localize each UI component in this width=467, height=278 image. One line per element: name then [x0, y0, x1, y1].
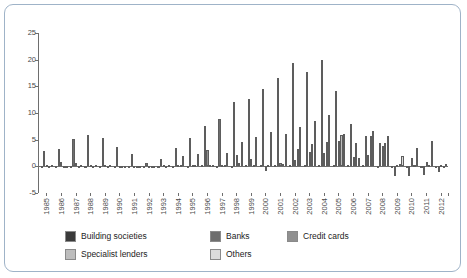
- bar-group: [141, 33, 156, 193]
- x-axis-tick-label: 2008: [378, 198, 387, 215]
- bar-banks: [175, 148, 177, 167]
- bar-banks: [87, 135, 89, 166]
- x-axis-tick-label: 2012: [437, 198, 446, 215]
- x-axis-tick-mark: [397, 193, 398, 196]
- x-axis-tick-mark: [411, 193, 412, 196]
- bar-group: [97, 33, 112, 193]
- bar-group: [68, 33, 83, 193]
- chart-legend: Building societiesBanksCredit cardsSpeci…: [65, 231, 395, 267]
- plot-area: 2520151050-5: [38, 33, 448, 193]
- bar-others: [168, 165, 170, 167]
- x-axis-tick-mark: [207, 193, 208, 196]
- x-axis-tick-mark: [149, 193, 150, 196]
- bar-group: [346, 33, 361, 193]
- bar-series-container: [39, 33, 448, 193]
- bar-credit-cards: [206, 150, 208, 167]
- bar-others: [182, 156, 184, 166]
- bar-group: [375, 33, 390, 193]
- bar-group: [287, 33, 302, 193]
- x-axis-tick-label: 2002: [291, 198, 300, 215]
- x-axis-tick-mark: [338, 193, 339, 196]
- bar-group: [170, 33, 185, 193]
- x-axis-tick-label: 1988: [86, 198, 95, 215]
- x-axis-tick-mark: [134, 193, 135, 196]
- y-axis-tick-labels: 2520151050-5: [16, 33, 36, 193]
- bar-credit-cards: [265, 166, 267, 170]
- y-axis-tick-mark: [35, 140, 38, 141]
- y-axis-tick-mark: [35, 60, 38, 61]
- bar-others: [387, 136, 389, 166]
- bar-group: [39, 33, 54, 193]
- x-axis-tick-mark: [324, 193, 325, 196]
- bar-banks: [438, 166, 440, 172]
- bar-group: [258, 33, 273, 193]
- x-axis-tick-mark: [426, 193, 427, 196]
- legend-label: Credit cards: [303, 231, 349, 242]
- x-axis-tick-label: 2009: [393, 198, 402, 215]
- bar-building-societies: [143, 166, 145, 168]
- x-axis-tick-label: 2003: [305, 198, 314, 215]
- y-axis-tick-mark: [35, 193, 38, 194]
- x-axis-tick-label: 2007: [364, 198, 373, 215]
- x-axis-tick-mark: [309, 193, 310, 196]
- x-axis-tick-label: 1990: [115, 198, 124, 215]
- bar-banks: [102, 138, 104, 167]
- legend-item-building-societies[interactable]: Building societies: [65, 231, 147, 242]
- x-axis-tick-mark: [46, 193, 47, 196]
- bar-others: [65, 166, 67, 168]
- x-axis-tick-mark: [368, 193, 369, 196]
- bar-banks: [277, 78, 279, 167]
- bar-banks: [43, 151, 45, 166]
- bar-group: [112, 33, 127, 193]
- legend-item-banks[interactable]: Banks: [210, 231, 250, 242]
- legend-item-specialist-lenders[interactable]: Specialist lenders: [65, 249, 148, 260]
- bar-others: [95, 165, 97, 167]
- bar-banks: [189, 138, 191, 167]
- bar-others: [138, 166, 140, 168]
- x-axis-tick-mark: [76, 193, 77, 196]
- x-axis-tick-mark: [192, 193, 193, 196]
- bar-group: [317, 33, 332, 193]
- bar-others: [270, 132, 272, 167]
- bar-group: [185, 33, 200, 193]
- x-axis-tick-label: 2004: [320, 198, 329, 215]
- bar-banks: [408, 166, 410, 176]
- x-axis-tick-mark: [236, 193, 237, 196]
- bar-banks: [131, 154, 133, 167]
- bar-group: [273, 33, 288, 193]
- x-axis-tick-label: 2010: [407, 198, 416, 215]
- bar-banks: [262, 89, 264, 166]
- bar-others: [372, 131, 374, 167]
- x-axis-tick-label: 1989: [101, 198, 110, 215]
- bar-group: [360, 33, 375, 193]
- x-axis-tick-mark: [441, 193, 442, 196]
- bar-others: [80, 165, 82, 167]
- x-axis-tick-mark: [105, 193, 106, 196]
- bar-others: [343, 134, 345, 166]
- bar-others: [328, 115, 330, 167]
- legend-label: Specialist lenders: [81, 249, 148, 260]
- x-axis-tick-label: 2000: [261, 198, 270, 215]
- bar-group: [433, 33, 448, 193]
- x-axis-tick-label: 1996: [203, 198, 212, 215]
- y-axis-tick-mark: [35, 166, 38, 167]
- bar-others: [401, 156, 403, 166]
- bar-building-societies: [157, 166, 159, 168]
- x-axis-tick-label: 1998: [232, 198, 241, 215]
- x-axis-tick-label: 2001: [276, 198, 285, 215]
- bar-others: [226, 153, 228, 166]
- legend-swatch-icon: [287, 231, 298, 242]
- x-axis-tick-label: 1994: [174, 198, 183, 215]
- bar-banks: [248, 99, 250, 166]
- x-axis-tick-mark: [295, 193, 296, 196]
- legend-swatch-icon: [65, 249, 76, 260]
- bar-group: [214, 33, 229, 193]
- x-axis-tick-label: 1992: [145, 198, 154, 215]
- x-axis-tick-label: 1997: [218, 198, 227, 215]
- legend-item-credit-cards[interactable]: Credit cards: [287, 231, 349, 242]
- bar-others: [212, 165, 214, 167]
- legend-item-others[interactable]: Others: [210, 249, 252, 260]
- x-axis-tick-label: 1991: [130, 198, 139, 215]
- bar-group: [229, 33, 244, 193]
- bar-others: [314, 121, 316, 166]
